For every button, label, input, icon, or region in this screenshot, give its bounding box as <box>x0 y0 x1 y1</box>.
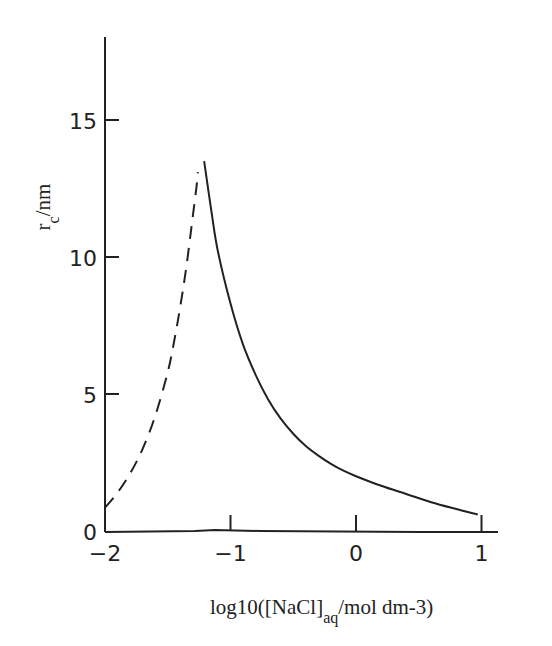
y-axis-title: rc/nm <box>31 184 62 231</box>
x-tick-label: 1 <box>475 541 489 566</box>
chart: 051015 −2−101 rc/nm log10([NaCl]aq/mol d… <box>0 0 552 646</box>
y-tick-label: 15 <box>69 109 97 134</box>
series <box>105 161 478 514</box>
x-ticks: −2−101 <box>89 515 489 566</box>
x-axis-title: log10([NaCl]aq/mol dm-3) <box>210 595 433 627</box>
x-tick-label: −2 <box>89 541 121 566</box>
y-tick-label: 10 <box>69 246 97 271</box>
axes <box>105 37 498 532</box>
x-tick-label: −1 <box>214 541 246 566</box>
y-ticks: 051015 <box>69 109 119 545</box>
series-solid-line <box>204 161 478 514</box>
x-axis-line <box>105 530 498 532</box>
x-tick-label: 0 <box>349 541 363 566</box>
y-tick-label: 5 <box>83 383 97 408</box>
series-dashed-line <box>105 172 198 508</box>
